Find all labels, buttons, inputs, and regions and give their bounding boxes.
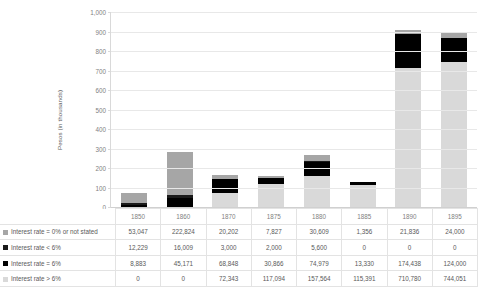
bar-segment[interactable] <box>212 193 238 207</box>
table-column-header: 1880 <box>297 209 342 225</box>
bar-column[interactable] <box>395 30 421 207</box>
chart-page: Pesos (in thousands) 0100200300400500600… <box>0 0 478 287</box>
legend-swatch-icon <box>3 261 8 266</box>
legend-item-label: Interest rate < 6% <box>11 244 61 251</box>
table-cell: 0 <box>387 240 432 256</box>
y-axis-tick-label: 100 <box>95 184 106 191</box>
y-axis-tick <box>108 168 111 169</box>
table-column-header: 1870 <box>206 209 251 225</box>
table-column-header: 1885 <box>342 209 387 225</box>
bar-segment[interactable] <box>167 198 193 207</box>
y-axis-tick-label: 900 <box>95 28 106 35</box>
gridline <box>111 51 477 52</box>
legend-item[interactable]: Interest rate = 0% or not stated <box>0 224 116 240</box>
table-row: Interest rate = 0% or not stated53,04722… <box>0 224 478 240</box>
data-table: 18501860187018751880188518901895Interest… <box>0 208 478 287</box>
y-axis-tick-label: 400 <box>95 126 106 133</box>
gridline <box>111 188 477 189</box>
table-cell: 3,000 <box>206 240 251 256</box>
bar-column[interactable] <box>304 155 330 207</box>
y-axis-tick-label: 700 <box>95 67 106 74</box>
table-cell: 0 <box>161 271 206 287</box>
table-cell: 74,979 <box>297 255 342 271</box>
y-axis-tick-labels: 01002003004005006007008009001,000 <box>78 8 106 208</box>
bar-column[interactable] <box>441 33 467 207</box>
table-column-header: 1875 <box>251 209 296 225</box>
table-cell: 72,343 <box>206 271 251 287</box>
y-axis-tick-label: 600 <box>95 87 106 94</box>
bar-column[interactable] <box>167 152 193 207</box>
gridline <box>111 110 477 111</box>
bar-column[interactable] <box>350 182 376 207</box>
bar-column[interactable] <box>121 193 147 207</box>
gridline <box>111 149 477 150</box>
bar-segment[interactable] <box>441 62 467 207</box>
y-axis-tick-label: 300 <box>95 145 106 152</box>
table-cell: 174,438 <box>387 255 432 271</box>
table-cell: 7,827 <box>251 224 296 240</box>
legend-item[interactable]: Interest rate < 6% <box>0 240 116 256</box>
gridline <box>111 71 477 72</box>
table-cell: 0 <box>116 271 161 287</box>
plot-area <box>110 12 477 207</box>
table-row: Interest rate > 6%0072,343117,094157,564… <box>0 271 478 287</box>
y-axis-tick-label: 200 <box>95 165 106 172</box>
gridline <box>111 90 477 91</box>
table-cell: 8,883 <box>116 255 161 271</box>
data-table-region: 18501860187018751880188518901895Interest… <box>0 208 478 287</box>
table-cell: 0 <box>432 240 477 256</box>
legend-item-label: Interest rate = 6% <box>11 260 61 267</box>
table-column-header: 1850 <box>116 209 161 225</box>
gridline <box>111 32 477 33</box>
y-axis-tick <box>108 129 111 130</box>
table-cell: 68,848 <box>206 255 251 271</box>
y-axis-title: Pesos (in thousands) <box>56 0 63 60</box>
table-cell: 115,391 <box>342 271 387 287</box>
y-axis-tick <box>108 51 111 52</box>
y-axis-tick <box>108 110 111 111</box>
bar-segment[interactable] <box>121 193 147 203</box>
y-axis-tick <box>108 188 111 189</box>
bar-column[interactable] <box>258 176 284 207</box>
bar-segment[interactable] <box>212 179 238 192</box>
table-cell: 16,009 <box>161 240 206 256</box>
y-axis-tick <box>108 149 111 150</box>
legend-item[interactable]: Interest rate > 6% <box>0 271 116 287</box>
table-cell: 124,000 <box>432 255 477 271</box>
y-axis-tick-label: 1,000 <box>90 9 106 16</box>
table-cell: 117,094 <box>251 271 296 287</box>
bar-segment[interactable] <box>441 38 467 62</box>
y-axis-tick-label: 800 <box>95 48 106 55</box>
legend-swatch-icon <box>3 230 8 235</box>
table-cell: 24,000 <box>432 224 477 240</box>
table-cell: 21,836 <box>387 224 432 240</box>
table-row: Interest rate < 6%12,22916,0093,0002,000… <box>0 240 478 256</box>
table-cell: 1,356 <box>342 224 387 240</box>
table-cell: 222,824 <box>161 224 206 240</box>
y-axis-tick <box>108 90 111 91</box>
bar-segment[interactable] <box>304 176 330 207</box>
y-axis-tick <box>108 32 111 33</box>
gridline <box>111 168 477 169</box>
table-cell: 12,229 <box>116 240 161 256</box>
table-cell: 5,600 <box>297 240 342 256</box>
table-cell: 53,047 <box>116 224 161 240</box>
table-header-row: 18501860187018751880188518901895 <box>0 209 478 225</box>
table-cell: 30,609 <box>297 224 342 240</box>
table-cell: 2,000 <box>251 240 296 256</box>
legend-item-label: Interest rate = 0% or not stated <box>11 228 98 235</box>
stacked-bar-chart: Pesos (in thousands) 0100200300400500600… <box>0 0 478 210</box>
bar-column[interactable] <box>212 175 238 207</box>
legend-item[interactable]: Interest rate = 6% <box>0 255 116 271</box>
table-row: Interest rate = 6%8,88345,17168,84830,86… <box>0 255 478 271</box>
legend-swatch-icon <box>3 277 8 282</box>
y-axis-tick <box>108 71 111 72</box>
table-cell: 0 <box>342 240 387 256</box>
table-cell: 20,202 <box>206 224 251 240</box>
table-column-header: 1890 <box>387 209 432 225</box>
bar-segment[interactable] <box>167 152 193 195</box>
table-cell: 710,780 <box>387 271 432 287</box>
table-column-header: 1860 <box>161 209 206 225</box>
y-axis-tick-label: 500 <box>95 106 106 113</box>
y-axis-title-label: Pesos (in thousands) <box>56 60 63 180</box>
